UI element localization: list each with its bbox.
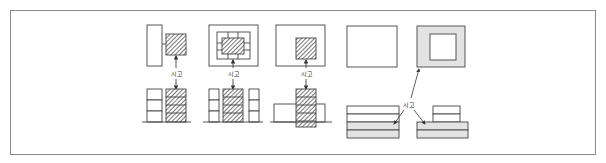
gray-base — [417, 130, 468, 138]
label-d2: 시고 — [228, 70, 240, 77]
diagram-canvas: 시고 시고 시고 시고 — [0, 0, 606, 163]
label-d3: 시고 — [301, 70, 313, 77]
label-d45: 시고 — [403, 101, 415, 108]
inner-white-rect — [430, 34, 456, 60]
hatched-core — [222, 38, 244, 54]
hatched-column — [166, 89, 186, 122]
diagram-4 — [347, 26, 399, 138]
hatched-square — [296, 38, 316, 59]
hatched-square — [166, 34, 186, 55]
gray-layer — [347, 122, 399, 130]
label-d1: 시고 — [171, 70, 183, 77]
diagram-5 — [417, 26, 468, 138]
diagram-1 — [142, 25, 191, 122]
gray-layer — [347, 130, 399, 138]
empty-rect — [347, 26, 397, 67]
tall-rect — [147, 25, 162, 66]
